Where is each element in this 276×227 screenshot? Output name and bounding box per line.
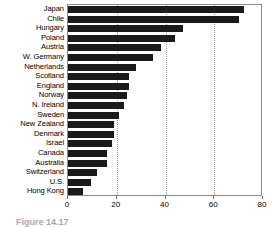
y-axis-tick-label: Denmark <box>0 129 64 139</box>
bar-row <box>68 178 263 188</box>
bar-row <box>68 15 263 25</box>
x-axis-tick <box>67 196 68 199</box>
y-axis-tick-label: Japan <box>0 4 64 14</box>
bar-row <box>68 91 263 101</box>
y-axis-labels: JapanChileHungaryPolandAustriaW. Germany… <box>0 4 64 196</box>
y-axis-tick-label: Israel <box>0 138 64 148</box>
bar <box>68 150 107 157</box>
bar-row <box>68 34 263 44</box>
bar-row <box>68 82 263 92</box>
bar <box>68 102 124 109</box>
x-axis-tick <box>262 196 263 199</box>
bar-row <box>68 149 263 159</box>
y-axis-tick-label: Chile <box>0 14 64 24</box>
bar <box>68 160 107 167</box>
y-axis-tick-label: Scotland <box>0 71 64 81</box>
y-axis-tick-label: Canada <box>0 148 64 158</box>
y-axis-tick-label: New Zealand <box>0 119 64 129</box>
bar-row <box>68 101 263 111</box>
y-axis-tick-label: Australia <box>0 158 64 168</box>
bar <box>68 92 127 99</box>
bar <box>68 140 112 147</box>
bar-row <box>68 5 263 15</box>
bar <box>68 188 83 195</box>
y-axis-tick-label: W. Germany <box>0 52 64 62</box>
x-axis-tick-label: 40 <box>160 200 169 210</box>
bar <box>68 83 129 90</box>
bar-row <box>68 139 263 149</box>
bar <box>68 73 129 80</box>
bar-row <box>68 159 263 169</box>
x-axis-tick <box>165 196 166 199</box>
plot-area <box>67 4 262 196</box>
bar-row <box>68 43 263 53</box>
bar-row <box>68 111 263 121</box>
y-axis-tick-label: Hong Kong <box>0 186 64 196</box>
bar <box>68 35 175 42</box>
x-axis-tick-label: 0 <box>65 200 69 210</box>
bar-row <box>68 63 263 73</box>
bar <box>68 44 161 51</box>
bar <box>68 169 97 176</box>
bar-row <box>68 72 263 82</box>
y-axis-tick-label: Norway <box>0 90 64 100</box>
bar <box>68 25 183 32</box>
y-axis-tick-label: Switzerland <box>0 167 64 177</box>
figure-caption-label: Figure 14.17 <box>16 217 69 227</box>
x-axis-tick-label: 20 <box>111 200 120 210</box>
bar <box>68 6 244 13</box>
bar-row <box>68 168 263 178</box>
x-axis-tick-label: 60 <box>209 200 218 210</box>
bar <box>68 16 239 23</box>
x-axis-tick-labels: 020406080 <box>0 200 276 212</box>
bar <box>68 131 114 138</box>
y-axis-tick-label: Austria <box>0 42 64 52</box>
y-axis-tick-label: Hungary <box>0 23 64 33</box>
bar <box>68 179 91 186</box>
bar <box>68 54 153 61</box>
bar <box>68 64 136 71</box>
bar-row <box>68 120 263 130</box>
y-axis-tick-label: Sweden <box>0 110 64 120</box>
y-axis-tick-label: England <box>0 81 64 91</box>
x-axis-tick <box>116 196 117 199</box>
bar <box>68 112 119 119</box>
y-axis-tick-label: Poland <box>0 33 64 43</box>
y-axis-tick-label: Netherlands <box>0 62 64 72</box>
bar-row <box>68 24 263 34</box>
y-axis-tick-label: N. Ireland <box>0 100 64 110</box>
bar <box>68 121 114 128</box>
bar-series <box>68 5 261 195</box>
figure-caption: Figure 14.17 <box>16 216 266 227</box>
x-axis-tick <box>213 196 214 199</box>
bar-row <box>68 53 263 63</box>
y-axis-tick-label: U.S. <box>0 177 64 187</box>
bar-row <box>68 130 263 140</box>
figure-container: JapanChileHungaryPolandAustriaW. Germany… <box>0 0 276 227</box>
x-axis-tick-label: 80 <box>258 200 267 210</box>
